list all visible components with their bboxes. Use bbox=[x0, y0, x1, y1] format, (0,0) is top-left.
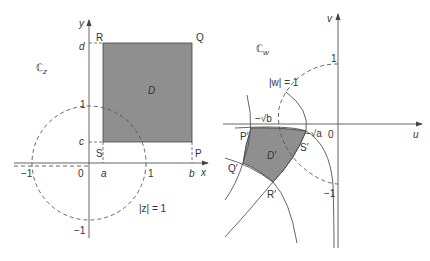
corner-r: R bbox=[96, 32, 103, 43]
tick-origin-w: 0 bbox=[328, 129, 334, 140]
w-plane-panel: ℂw v u 1 −1 0 −√b −√a |w| = 1 D′ P′ Q′ R… bbox=[223, 13, 422, 248]
x-axis-label: x bbox=[200, 167, 207, 178]
corner-q-prime: Q′ bbox=[228, 163, 238, 174]
tick-c: c bbox=[79, 136, 84, 147]
circle-label-z: |z| = 1 bbox=[139, 203, 167, 214]
tick-neg-sqrt-b: −√b bbox=[255, 113, 272, 124]
tick-one-y: 1 bbox=[80, 99, 86, 110]
tick-neg-sqrt-a: −√a bbox=[305, 128, 322, 139]
corner-r-prime: R′ bbox=[267, 189, 276, 200]
region-d-prime-label: D′ bbox=[267, 150, 277, 161]
y-axis-label: y bbox=[78, 18, 85, 29]
tick-neg-one-v: −1 bbox=[324, 188, 336, 199]
plane-label-w: ℂw bbox=[256, 43, 270, 57]
tick-one-x: 1 bbox=[148, 168, 154, 179]
v-axis-label: v bbox=[327, 13, 333, 24]
corner-s-prime: S′ bbox=[300, 142, 309, 153]
circle-label-w: |w| = 1 bbox=[269, 77, 299, 88]
plane-label-z: ℂz bbox=[36, 62, 47, 76]
conformal-map-diagram: ℂz y x D R Q S P d c a b 1 −1 0 1 −1 −1 … bbox=[0, 0, 430, 261]
region-d-label: D bbox=[148, 85, 155, 96]
tick-origin: 0 bbox=[78, 168, 84, 179]
corner-q: Q bbox=[196, 32, 204, 43]
tick-b: b bbox=[189, 168, 195, 179]
tick-d: d bbox=[79, 41, 85, 52]
corner-p-prime: P′ bbox=[240, 131, 249, 142]
tick-a: a bbox=[101, 168, 107, 179]
corner-p: P bbox=[195, 148, 202, 159]
tick-neg-one-y-visible: −1 bbox=[74, 225, 86, 236]
u-axis-label: u bbox=[413, 129, 419, 140]
z-plane-panel: ℂz y x D R Q S P d c a b 1 −1 0 1 −1 −1 … bbox=[14, 18, 208, 238]
tick-one-v: 1 bbox=[331, 53, 337, 64]
tick-neg-one-x: −1 bbox=[21, 168, 33, 179]
corner-s: S bbox=[96, 148, 103, 159]
